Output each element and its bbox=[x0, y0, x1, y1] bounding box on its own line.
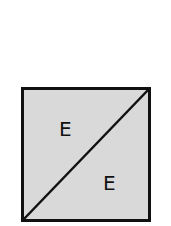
region-label-upper: E bbox=[59, 119, 72, 139]
region-label-lower: E bbox=[103, 173, 116, 193]
divided-square: E E bbox=[21, 87, 151, 222]
square-diagonal-graphic bbox=[21, 87, 151, 222]
